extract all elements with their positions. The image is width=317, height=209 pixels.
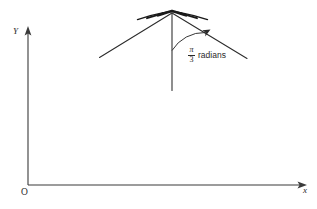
angle-measure-label: π 3 radians [188, 46, 226, 64]
x-axis-label: x [303, 186, 307, 195]
angle-unit-label: radians [198, 51, 226, 60]
fraction-numerator: π [188, 46, 194, 55]
fraction-denominator: 3 [189, 56, 195, 65]
y-axis-label: Y [13, 27, 18, 36]
figure-drawing [0, 0, 317, 209]
figure-canvas: Y x O π 3 radians [0, 0, 317, 209]
pi-over-three-fraction: π 3 [188, 46, 195, 64]
y-axis-group [25, 26, 32, 185]
origin-label: O [21, 188, 28, 198]
left-ray [100, 13, 173, 58]
x-axis-group [28, 182, 307, 189]
